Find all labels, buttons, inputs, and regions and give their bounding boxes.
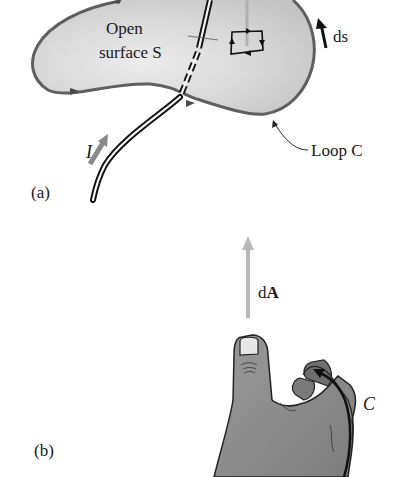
loop-c-pointer [275, 124, 308, 150]
panel-b: dA C (b) [34, 236, 376, 477]
wire-bottom [93, 97, 180, 200]
curve-c-label: C [363, 394, 376, 414]
open-surface [33, 0, 315, 114]
current-label: I [85, 142, 93, 162]
panel-b-label: (b) [34, 441, 54, 460]
loop-arrow-mid [186, 100, 195, 107]
right-hand-icon [214, 335, 356, 477]
loop-c-label: Loop C [311, 141, 362, 160]
panel-a-label: (a) [31, 183, 50, 202]
amperes-law-figure: ds Open surface S I Loop C (a) dA [0, 0, 398, 477]
surface-label-line1: Open [106, 19, 143, 38]
dA-arrow [242, 236, 254, 318]
dA-label: dA [258, 283, 280, 302]
ds-label: ds [333, 27, 348, 46]
panel-a: ds Open surface S I Loop C (a) [31, 0, 362, 202]
ds-arrow [316, 18, 327, 48]
surface-label-line2: surface S [99, 43, 162, 62]
